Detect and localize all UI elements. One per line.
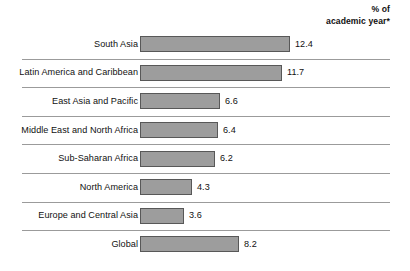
bar-wrapper: 6.4 — [140, 122, 410, 138]
chart-unit-header: % of academic year* — [326, 4, 390, 27]
bar-category-label: Global — [0, 239, 138, 250]
bar-value-label: 6.4 — [223, 125, 236, 136]
chart-row: South Asia12.4 — [0, 30, 410, 59]
bar-wrapper: 6.6 — [140, 93, 410, 109]
chart-row: North America4.3 — [0, 173, 410, 202]
bar-wrapper: 6.2 — [140, 151, 410, 167]
bar-value-label: 6.2 — [220, 153, 233, 164]
bar-wrapper: 11.7 — [140, 65, 410, 81]
bar — [140, 36, 290, 52]
unit-header-line-2: academic year* — [326, 16, 390, 28]
bar — [140, 208, 184, 224]
bar-value-label: 4.3 — [197, 182, 210, 193]
bar-category-label: Middle East and North Africa — [0, 125, 138, 136]
chart-row: Europe and Central Asia3.6 — [0, 202, 410, 231]
bar — [140, 65, 282, 81]
bar-wrapper: 12.4 — [140, 36, 410, 52]
bar-value-label: 3.6 — [189, 210, 202, 221]
bar-wrapper: 3.6 — [140, 208, 410, 224]
bar — [140, 122, 218, 138]
bar — [140, 93, 220, 109]
bar-wrapper: 4.3 — [140, 179, 410, 195]
bar-category-label: Latin America and Caribbean — [0, 67, 138, 78]
chart-row: Middle East and North Africa6.4 — [0, 116, 410, 145]
chart-row: East Asia and Pacific6.6 — [0, 87, 410, 116]
bar — [140, 179, 192, 195]
bar-value-label: 12.4 — [295, 39, 313, 50]
bar-category-label: East Asia and Pacific — [0, 96, 138, 107]
bar-category-label: Europe and Central Asia — [0, 210, 138, 221]
bar-wrapper: 8.2 — [140, 236, 410, 252]
bar-value-label: 8.2 — [244, 239, 257, 250]
chart-row: Latin America and Caribbean11.7 — [0, 59, 410, 88]
bar-category-label: Sub-Saharan Africa — [0, 153, 138, 164]
bar — [140, 236, 239, 252]
bar-value-label: 11.7 — [287, 67, 304, 78]
unit-header-line-1: % of — [326, 4, 390, 16]
chart-rows: South Asia12.4Latin America and Caribbea… — [0, 30, 410, 259]
bar-value-label: 6.6 — [225, 96, 238, 107]
chart-row: Sub-Saharan Africa6.2 — [0, 144, 410, 173]
bar — [140, 151, 215, 167]
bar-category-label: North America — [0, 182, 138, 193]
bar-category-label: South Asia — [0, 39, 138, 50]
horizontal-bar-chart: % of academic year* South Asia12.4Latin … — [0, 0, 410, 271]
chart-row: Global8.2 — [0, 230, 410, 259]
